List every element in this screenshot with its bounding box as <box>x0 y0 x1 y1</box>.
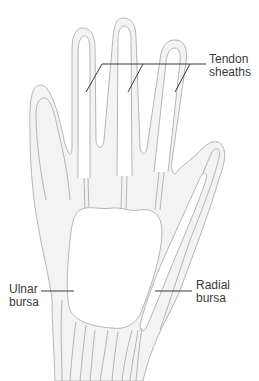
index-finger-sheath <box>78 36 90 178</box>
hand-sheaths-diagram: Tendon sheaths Ulnar bursa Radial bursa <box>0 0 259 381</box>
middle-finger-sheath <box>117 26 132 176</box>
ulnar-bursa-label: Ulnar bursa <box>9 283 39 309</box>
radial-bursa-label: Radial bursa <box>196 279 230 305</box>
tendon-sheaths-label: Tendon sheaths <box>209 53 251 79</box>
